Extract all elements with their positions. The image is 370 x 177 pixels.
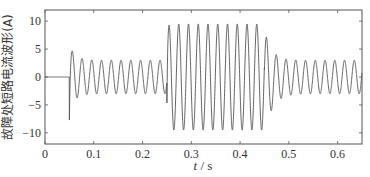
y-tick-label: −5 bbox=[28, 98, 41, 112]
x-tick-label: 0.4 bbox=[233, 147, 248, 161]
y-tick-label: 10 bbox=[29, 14, 41, 28]
x-axis-ticks: 00.10.20.30.40.50.6 bbox=[42, 10, 345, 161]
y-tick-label: 0 bbox=[35, 70, 41, 84]
x-tick-label: 0.6 bbox=[330, 147, 345, 161]
y-tick-label: 5 bbox=[35, 42, 41, 56]
x-tick-label: 0.2 bbox=[135, 147, 150, 161]
y-tick-label: −10 bbox=[22, 126, 41, 140]
x-tick-label: 0.5 bbox=[281, 147, 296, 161]
waveform-chart: 00.10.20.30.40.50.6 1050−5−10 t / s 故障处短… bbox=[0, 0, 370, 177]
y-axis-label: 故障处短路电流波形(A) bbox=[0, 14, 15, 140]
current-waveform-line bbox=[45, 24, 362, 130]
x-axis-label: t / s bbox=[194, 158, 213, 173]
x-tick-label: 0 bbox=[42, 147, 48, 161]
x-tick-label: 0.1 bbox=[86, 147, 101, 161]
